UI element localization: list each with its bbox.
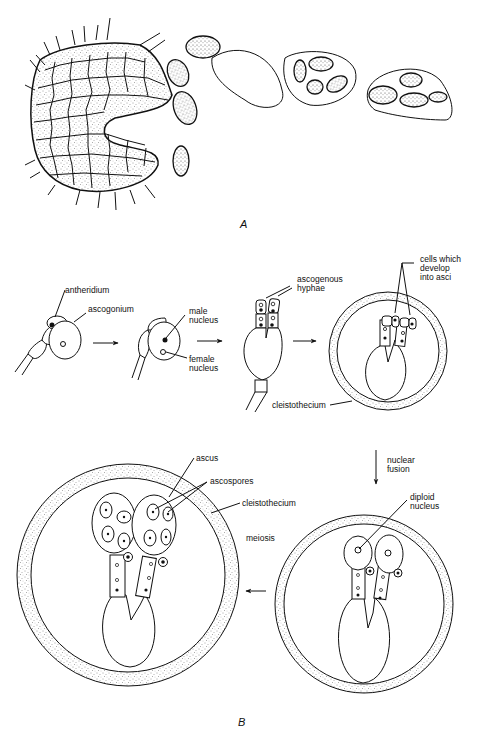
label-cleistothecium-2: cleistothecium xyxy=(242,498,296,508)
stage-mature-cleistothecium: ascus ascospores cleistothecium xyxy=(17,453,296,686)
free-ascospore xyxy=(169,88,201,127)
panel-label-b: B xyxy=(238,716,245,728)
germinating-ascus xyxy=(186,36,283,107)
panel-label-a: A xyxy=(239,218,247,230)
label-ascospores: ascospores xyxy=(210,476,253,486)
label-cells-3: into asci xyxy=(420,272,451,282)
stage-gametangia: antheridium ascogonium xyxy=(15,285,134,375)
label-ascogonium: ascogonium xyxy=(88,304,134,314)
label-meiosis: meiosis xyxy=(246,533,275,543)
panel-b: antheridium ascogonium male nucleus fema… xyxy=(15,254,461,728)
ascus-with-spores-1 xyxy=(284,52,356,106)
label-ascogenous-2: hyphae xyxy=(297,283,325,293)
label-female-nucleus-2: nucleus xyxy=(189,363,218,373)
stage-ascogenous-hyphae: ascogenous hyphae xyxy=(244,274,343,412)
label-cleistothecium-1: cleistothecium xyxy=(272,400,326,410)
life-cycle-diagram: A antheridium ascogonium xyxy=(0,0,481,729)
label-male-nucleus-2: nucleus xyxy=(189,315,218,325)
stage-diploid: diploid nucleus xyxy=(275,492,453,693)
panel-a: A xyxy=(25,18,452,230)
label-antheridium: antheridium xyxy=(65,285,109,295)
label-nuclear-2: fusion xyxy=(387,464,410,474)
ascus-with-spores-2 xyxy=(367,69,452,120)
stage-plasmogamy: male nucleus female nucleus xyxy=(132,306,218,380)
ruptured-cleistothecium xyxy=(25,18,172,210)
label-diploid-2: nucleus xyxy=(410,501,439,511)
label-ascus: ascus xyxy=(196,453,218,463)
free-ascospore xyxy=(173,146,189,176)
